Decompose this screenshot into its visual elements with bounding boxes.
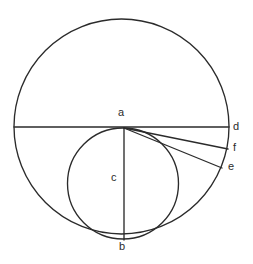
point-label-e: e — [228, 161, 234, 172]
point-label-a: a — [118, 107, 124, 118]
point-label-f: f — [233, 142, 236, 153]
point-label-b: b — [119, 241, 125, 252]
geometry-diagram: a b c d f e — [0, 0, 253, 264]
segment-line-ae — [124, 128, 222, 168]
point-label-d: d — [233, 121, 239, 132]
point-label-c: c — [111, 172, 117, 183]
inner-circle — [68, 128, 179, 239]
segment-line-af — [124, 128, 228, 149]
geometry-canvas — [0, 0, 253, 264]
